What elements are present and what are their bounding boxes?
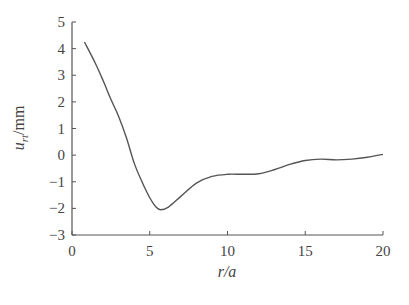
x-tick-label: 15 xyxy=(298,243,313,259)
y-tick-label: −1 xyxy=(49,174,65,190)
x-tick-label: 20 xyxy=(376,243,391,259)
y-tick-label: 2 xyxy=(58,94,66,110)
data-line xyxy=(84,42,383,210)
x-tick-label: 10 xyxy=(220,243,235,259)
y-tick-label: 0 xyxy=(58,147,66,163)
y-axis: 543210−1−2−3 xyxy=(49,14,76,243)
y-tick-label: 5 xyxy=(58,14,66,30)
y-axis-label: urt/mm xyxy=(10,105,30,150)
y-tick-label: −3 xyxy=(49,227,65,243)
y-axis-label-main: u xyxy=(10,142,27,150)
line-chart: 543210−1−2−3 05101520 r/a urt/mm xyxy=(0,0,409,305)
y-tick-label: −2 xyxy=(49,200,65,216)
x-axis-label: r/a xyxy=(218,263,237,280)
x-tick-label: 0 xyxy=(68,243,76,259)
x-axis: 05101520 xyxy=(68,231,390,259)
y-tick-label: 1 xyxy=(58,121,66,137)
svg-text:urt/mm: urt/mm xyxy=(10,105,30,150)
x-tick-label: 5 xyxy=(146,243,154,259)
y-axis-label-unit: /mm xyxy=(10,105,27,135)
y-tick-label: 4 xyxy=(58,41,66,57)
y-tick-label: 3 xyxy=(58,67,66,83)
